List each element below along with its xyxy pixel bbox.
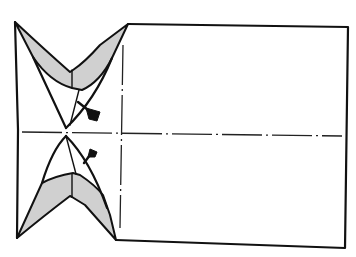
origami-diagram	[0, 0, 356, 257]
horizontal-crease	[22, 132, 342, 136]
vertical-crease	[120, 45, 123, 228]
diagram-canvas	[0, 0, 356, 257]
left-edge	[15, 22, 18, 238]
push-arrow-bottom-icon	[84, 149, 97, 163]
paper-rectangle	[116, 24, 348, 248]
bottom-flap	[17, 173, 116, 240]
